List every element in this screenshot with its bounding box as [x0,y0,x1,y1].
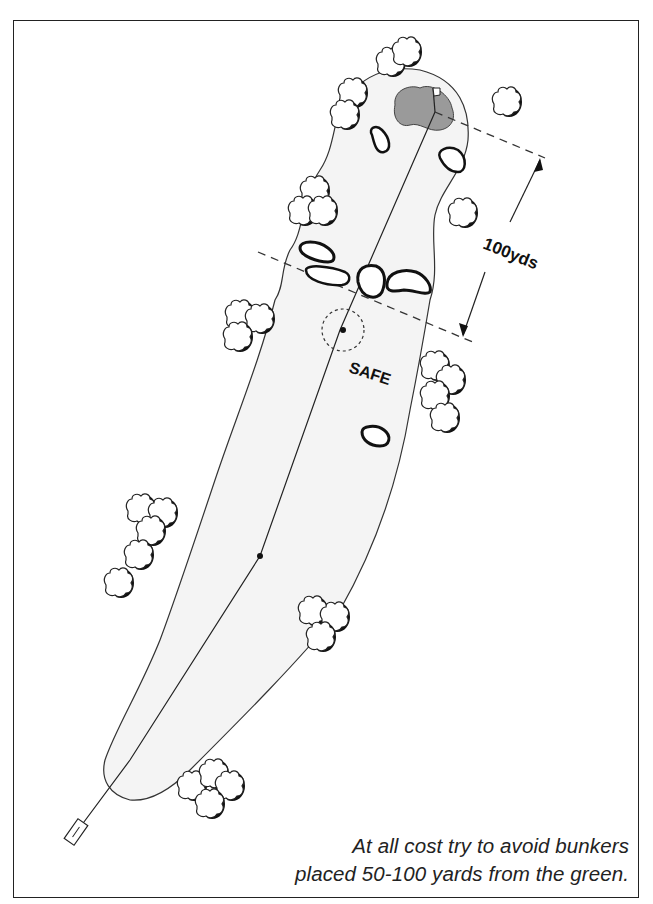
tree-cluster-right-green [492,87,522,117]
distance-label: 100yds [481,234,542,273]
bunker [358,266,385,298]
caption-line-2: placed 50-100 yards from the green. [295,860,629,888]
caption: At all cost try to avoid bunkers placed … [295,832,629,888]
tee-box [64,819,88,846]
tree-cluster-right-mid [448,198,478,228]
tree-cluster-left-lower [104,494,178,598]
safe-point [340,327,346,333]
fairway [104,69,469,800]
tree-cluster-right-safe [420,351,466,433]
lay-up-point [257,553,263,559]
caption-line-1: At all cost try to avoid bunkers [295,832,629,860]
golf-hole-diagram: 100yds SAFE [0,0,653,904]
